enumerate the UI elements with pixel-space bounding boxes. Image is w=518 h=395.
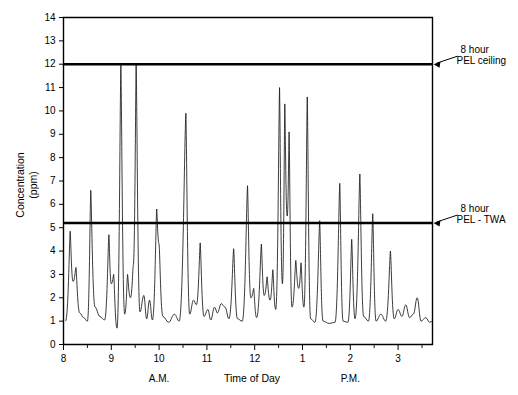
data-trace: [66, 64, 433, 328]
y-tick-label: 2: [50, 292, 56, 303]
x-tick-label: 2: [348, 353, 354, 364]
x-axis-title: Time of Day: [224, 372, 281, 384]
data-trace-group: [66, 64, 433, 328]
annotation-group: 8 hourPEL ceiling8 hourPEL - TWA: [434, 44, 507, 226]
y-tick-label: 11: [45, 82, 56, 93]
y-axis-tick-labels: 01234567891011121314: [44, 12, 56, 350]
plot-border: [64, 18, 433, 345]
y-axis-title-line2: (ppm): [27, 171, 39, 198]
period-label: P.M.: [341, 373, 360, 384]
y-tick-label: 5: [50, 222, 56, 233]
concentration-time-chart: 01234567891011121314 89101112123A.M.P.M.…: [0, 0, 518, 395]
x-tick-label: 3: [395, 353, 401, 364]
y-tick-label: 6: [50, 198, 56, 209]
y-tick-label: 9: [50, 128, 56, 139]
x-tick-label: 1: [300, 353, 306, 364]
y-tick-label: 14: [44, 12, 56, 23]
y-tick-label: 1: [50, 315, 56, 326]
y-tick-label: 12: [44, 58, 56, 69]
y-tick-label: 0: [50, 339, 56, 350]
annotation-pel-ceiling-line2: PEL ceiling: [457, 55, 507, 66]
y-tick-label: 7: [50, 175, 56, 186]
annotation-pel-ceiling-line1: 8 hour: [461, 44, 490, 55]
y-tick-label: 13: [44, 35, 56, 46]
y-tick-label: 10: [44, 105, 56, 116]
y-tick-label: 3: [50, 269, 56, 280]
annotation-pel-twa-line1: 8 hour: [461, 203, 490, 214]
annotation-pel-twa-line2: PEL - TWA: [457, 214, 506, 225]
y-tick-label: 4: [50, 245, 56, 256]
period-label: A.M.: [149, 373, 170, 384]
chart-figure: 01234567891011121314 89101112123A.M.P.M.…: [0, 0, 518, 395]
x-tick-label: 12: [249, 353, 261, 364]
x-axis-ticks: [64, 345, 422, 351]
y-axis-title-line1: Concentration: [14, 152, 26, 218]
y-tick-label: 8: [50, 152, 56, 163]
plot-frame: [64, 18, 433, 345]
x-tick-label: 11: [202, 353, 213, 364]
x-tick-label: 9: [109, 353, 115, 364]
x-tick-label: 10: [154, 353, 166, 364]
x-tick-label: 8: [61, 353, 67, 364]
